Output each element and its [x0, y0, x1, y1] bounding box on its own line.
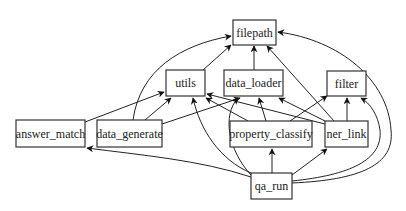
node-label: filter [335, 77, 358, 91]
node-label: qa_run [255, 179, 288, 193]
dependency-diagram: filepathutilsdata_loaderfilteranswer_mat… [0, 0, 406, 211]
edge-data_generate-to-data_loader [162, 98, 240, 124]
node-label: filepath [236, 26, 273, 40]
node-filter: filter [327, 71, 366, 96]
edge-data_generate-to-utils [145, 98, 171, 120]
node-label: answer_match [16, 127, 85, 141]
edge-utils-to-filepath [203, 45, 231, 70]
node-property_classify: property_classify [229, 121, 312, 147]
edge-qa_run-to-filepath [278, 32, 391, 183]
node-label: utils [175, 76, 196, 90]
node-data_loader: data_loader [224, 70, 283, 96]
edge-property_classify-to-filter [290, 96, 327, 121]
node-ner_link: ner_link [325, 121, 368, 147]
node-answer_match: answer_match [16, 120, 85, 147]
graph-canvas: filepathutilsdata_loaderfilteranswer_mat… [0, 0, 406, 211]
node-filepath: filepath [233, 20, 276, 45]
edge-property_classify-to-data_loader [259, 98, 266, 121]
edge-answer_match-to-utils [85, 92, 164, 122]
node-label: property_classify [229, 127, 312, 141]
node-utils: utils [166, 70, 205, 96]
edges-layer [85, 32, 391, 183]
edge-property_classify-to-utils [206, 98, 248, 121]
node-qa_run: qa_run [251, 173, 292, 199]
edge-qa_run-to-ner_link [292, 149, 327, 175]
node-label: ner_link [327, 127, 367, 141]
node-data_generate: data_generate [96, 120, 163, 147]
edge-qa_run-to-answer_match [87, 148, 251, 177]
node-label: data_loader [226, 76, 282, 90]
node-label: data_generate [96, 127, 163, 141]
